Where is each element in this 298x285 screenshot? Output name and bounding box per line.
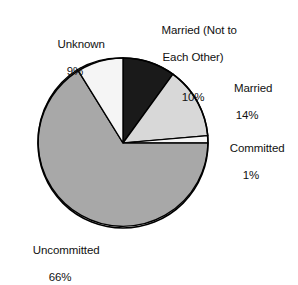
pie-label-uncommitted: Uncommitted 66%: [4, 230, 116, 285]
pie-label-unknown: Unknown 9%: [34, 24, 116, 105]
pie-label-committed-text: Committed: [230, 142, 285, 154]
pie-label-married-percent: 14%: [204, 109, 290, 123]
pie-label-married-not-to-each-other-line2: Each Other): [139, 51, 247, 65]
pie-label-married-not-to-each-other-line1: Married (Not to: [162, 24, 237, 36]
pie-label-unknown-percent: 9%: [34, 65, 116, 79]
pie-label-married-text: Married: [234, 82, 272, 94]
pie-label-committed-percent: 1%: [205, 169, 297, 183]
pie-label-uncommitted-text: Uncommitted: [33, 244, 100, 256]
pie-label-uncommitted-percent: 66%: [4, 271, 116, 285]
pie-label-unknown-text: Unknown: [58, 38, 105, 50]
pie-label-committed: Committed 1%: [205, 128, 297, 209]
